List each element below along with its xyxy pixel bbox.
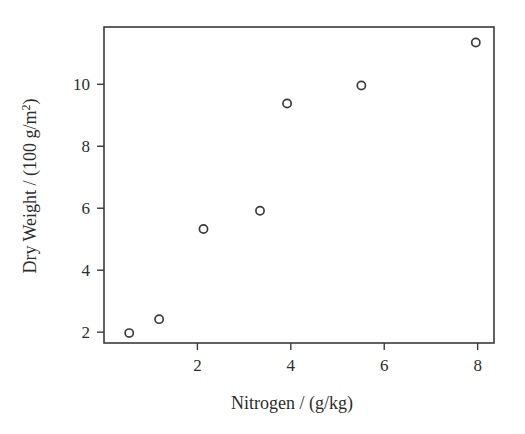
data-point-marker <box>125 329 133 337</box>
data-point-marker <box>357 81 365 89</box>
chart-canvas: 2468 246810 Nitrogen / (g/kg) Dry Weight… <box>0 0 525 434</box>
x-tick-label: 8 <box>473 356 482 375</box>
data-point-markers <box>125 38 480 337</box>
data-point-marker <box>283 99 291 107</box>
y-axis-ticks <box>97 84 104 332</box>
x-tick-label: 2 <box>193 356 202 375</box>
y-tick-label: 6 <box>82 199 91 218</box>
y-axis-title: Dry Weight / (100 g/m2) <box>19 98 41 273</box>
data-point-marker <box>199 225 207 233</box>
y-tick-label: 2 <box>82 323 91 342</box>
x-axis-tick-labels: 2468 <box>193 356 482 375</box>
y-axis-tick-labels: 246810 <box>73 75 91 342</box>
data-point-marker <box>472 38 480 46</box>
plot-frame <box>104 27 494 343</box>
y-tick-label: 4 <box>82 261 91 280</box>
y-axis-title-main: Dry Weight / (100 g/m <box>20 110 41 273</box>
data-point-marker <box>155 315 163 323</box>
y-axis-title-tail: ) <box>20 98 41 104</box>
y-tick-label: 8 <box>82 137 91 156</box>
x-tick-label: 4 <box>287 356 296 375</box>
scatter-plot-figure: 2468 246810 Nitrogen / (g/kg) Dry Weight… <box>0 0 525 434</box>
x-axis-ticks <box>197 343 477 350</box>
data-point-marker <box>256 207 264 215</box>
x-axis-title: Nitrogen / (g/kg) <box>231 393 353 414</box>
y-tick-label: 10 <box>73 75 90 94</box>
x-tick-label: 6 <box>380 356 389 375</box>
